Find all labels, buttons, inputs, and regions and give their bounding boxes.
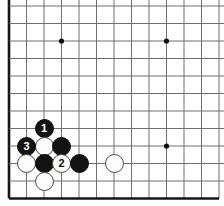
go-board-diagram: 132	[0, 0, 224, 206]
star-point-upper-right	[164, 38, 169, 43]
goban-grid-svg	[0, 0, 224, 206]
black-stone-move-3[interactable]: 3	[17, 137, 36, 156]
stone-move-number: 1	[41, 123, 47, 134]
stone-move-number: 3	[23, 140, 29, 151]
white-stone-unnumbered-d[interactable]	[105, 154, 124, 173]
white-stone-unnumbered-b[interactable]	[17, 154, 36, 173]
black-stone-unnumbered-c[interactable]	[70, 154, 89, 173]
black-stone-unnumbered-a[interactable]	[52, 137, 71, 156]
star-point-lower-right	[164, 143, 169, 148]
black-stone-unnumbered-b[interactable]	[35, 154, 54, 173]
white-stone-unnumbered-a[interactable]	[35, 137, 54, 156]
goban-grid	[0, 0, 224, 206]
white-stone-move-2[interactable]: 2	[52, 154, 71, 173]
white-stone-unnumbered-c[interactable]	[35, 172, 54, 191]
star-point-upper-left	[59, 38, 64, 43]
black-stone-move-1[interactable]: 1	[35, 119, 54, 138]
stone-move-number: 2	[58, 158, 64, 169]
